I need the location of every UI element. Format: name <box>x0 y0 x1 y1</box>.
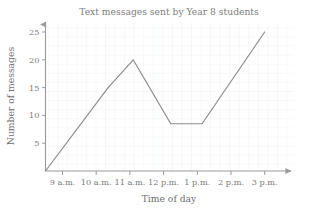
x-tick-label-2pm: 2 p.m. <box>218 177 244 187</box>
y-axis-title: Number of messages <box>5 47 16 146</box>
x-tick-label-3pm: 3 p.m. <box>252 177 278 187</box>
y-tick-label-5: 5 <box>34 138 39 148</box>
x-axis-title: Time of day <box>142 193 197 204</box>
chart-title: Text messages sent by Year 8 students <box>79 6 259 17</box>
y-tick-label-10: 10 <box>29 110 39 120</box>
line-chart: Text messages sent by Year 8 students 5 … <box>0 0 310 215</box>
y-tick-label-25: 25 <box>29 27 39 37</box>
x-axis-ticks <box>63 171 265 175</box>
x-tick-label-1pm: 1 p.m. <box>184 177 210 187</box>
x-tick-label-12pm: 12 p.m. <box>148 177 179 187</box>
y-tick-label-20: 20 <box>29 55 39 65</box>
x-tick-label-9am: 9 a.m. <box>50 177 76 187</box>
y-tick-label-15: 15 <box>29 83 39 93</box>
x-tick-label-11am: 11 a.m. <box>114 177 145 187</box>
chart-container: Text messages sent by Year 8 students 5 … <box>0 0 310 215</box>
x-tick-label-10am: 10 a.m. <box>81 177 112 187</box>
